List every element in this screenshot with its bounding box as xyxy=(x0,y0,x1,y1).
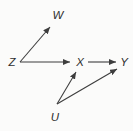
diagram-canvas: WZXYU xyxy=(0,0,133,131)
geometry-diagram: WZXYU xyxy=(0,0,133,131)
point-label-Y: Y xyxy=(120,56,129,68)
point-label-W: W xyxy=(53,9,65,21)
ray-U-X xyxy=(57,72,76,104)
rays-group xyxy=(20,27,117,104)
point-label-Z: Z xyxy=(7,56,16,68)
point-labels-group: WZXYU xyxy=(7,9,129,123)
point-label-X: X xyxy=(75,56,85,68)
ray-U-Y xyxy=(57,69,117,104)
ray-Z-W xyxy=(20,27,50,62)
point-label-U: U xyxy=(51,111,60,123)
